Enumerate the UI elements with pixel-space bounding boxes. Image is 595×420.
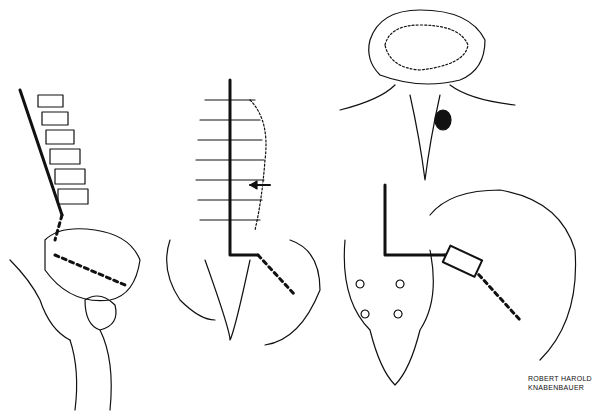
artist-signature: ROBERT HAROLD KNABENBAUER	[528, 374, 592, 392]
signature-line-2: KNABENBAUER	[528, 383, 592, 392]
signature-line-1: ROBERT HAROLD	[528, 374, 592, 383]
vertebra-panel	[340, 10, 515, 180]
sacrum-ilium-panel	[344, 185, 575, 385]
medical-illustration	[0, 0, 595, 420]
posterior-spine-panel	[167, 80, 320, 345]
lateral-spine-panel	[10, 90, 140, 410]
